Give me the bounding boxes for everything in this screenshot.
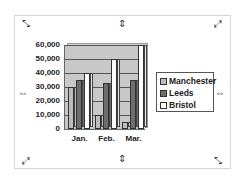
bar-bristol-feb[interactable] bbox=[111, 59, 117, 129]
bar-leeds-mar[interactable] bbox=[130, 80, 136, 129]
bar-manchester-mar[interactable] bbox=[122, 122, 128, 129]
y-axis-tick-label: 10,000 bbox=[22, 111, 60, 119]
bar-bristol-jan[interactable] bbox=[84, 73, 90, 129]
legend-item-manchester[interactable]: Manchester bbox=[160, 77, 216, 86]
bar-bristol-mar[interactable] bbox=[138, 45, 144, 129]
legend-label: Manchester bbox=[169, 77, 216, 86]
y-axis-tick-label: 30,000 bbox=[22, 83, 60, 91]
gridline bbox=[65, 45, 145, 46]
plot-area[interactable] bbox=[64, 45, 145, 130]
legend-label: Bristol bbox=[169, 101, 196, 110]
bar-leeds-feb[interactable] bbox=[103, 83, 109, 129]
y-axis-tick-label: 20,000 bbox=[22, 97, 60, 105]
legend-label: Leeds bbox=[169, 89, 194, 98]
legend-swatch-icon bbox=[160, 90, 167, 97]
bar-side-face bbox=[90, 73, 93, 127]
bar-manchester-jan[interactable] bbox=[68, 87, 74, 129]
x-axis-tick-label: Mar. bbox=[122, 134, 146, 143]
y-axis-tick-label: 0 bbox=[22, 125, 60, 133]
y-axis-tick-label: 60,000 bbox=[22, 41, 60, 49]
bar-leeds-jan[interactable] bbox=[76, 80, 82, 129]
legend-item-bristol[interactable]: Bristol bbox=[160, 101, 196, 110]
chart-legend[interactable]: ManchesterLeedsBristol bbox=[156, 72, 214, 112]
gridline bbox=[65, 59, 145, 60]
x-axis-tick-label: Jan. bbox=[68, 134, 92, 143]
bar-manchester-feb[interactable] bbox=[95, 115, 101, 129]
gridline bbox=[65, 73, 145, 74]
x-axis-tick-label: Feb. bbox=[95, 134, 119, 143]
legend-item-leeds[interactable]: Leeds bbox=[160, 89, 194, 98]
bar-side-face bbox=[117, 59, 120, 127]
legend-swatch-icon bbox=[160, 102, 167, 109]
y-axis-tick-label: 40,000 bbox=[22, 69, 60, 77]
bar-side-face bbox=[144, 45, 147, 127]
legend-swatch-icon bbox=[160, 78, 167, 85]
y-axis-tick-label: 50,000 bbox=[22, 55, 60, 63]
column-chart[interactable]: 010,00020,00030,00040,00050,00060,000 Ja… bbox=[0, 0, 244, 182]
